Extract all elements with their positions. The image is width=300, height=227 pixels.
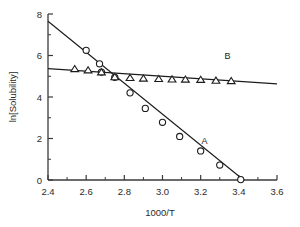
x-tick-label: 2.4: [41, 186, 54, 197]
x-axis-title: 1000/T: [145, 207, 175, 218]
fit-lines: [48, 21, 277, 180]
x-tick-label: 3.6: [270, 186, 283, 197]
data-point-circle: [96, 61, 102, 67]
axes: [48, 14, 277, 180]
y-axis-ticks: [48, 14, 53, 180]
x-tick-label: 3.0: [156, 186, 169, 197]
x-tick-label: 2.6: [80, 186, 93, 197]
fit-line-a: [48, 21, 244, 180]
series-label-a: A: [201, 136, 207, 146]
x-axis-tick-labels: 2.42.62.83.03.23.43.6: [41, 186, 283, 197]
solubility-scatter-plot: 2.42.62.83.03.23.43.6 02468 AB 1000/T ln…: [0, 0, 300, 227]
x-tick-label: 3.4: [232, 186, 245, 197]
data-point-circle: [238, 176, 244, 182]
y-tick-label: 4: [37, 92, 42, 103]
data-point-circle: [177, 133, 183, 139]
data-point-circle: [159, 119, 165, 125]
data-markers: [71, 47, 244, 182]
chart-figure: 2.42.62.83.03.23.43.6 02468 AB 1000/T ln…: [0, 0, 300, 227]
y-axis-tick-labels: 02468: [37, 9, 42, 186]
series-labels: AB: [201, 51, 230, 147]
y-tick-label: 8: [37, 9, 42, 20]
data-point-circle: [142, 105, 148, 111]
y-tick-label: 0: [37, 175, 42, 186]
y-tick-label: 6: [37, 50, 42, 61]
data-point-circle: [217, 162, 223, 168]
x-tick-label: 2.8: [118, 186, 131, 197]
data-point-triangle: [182, 76, 190, 82]
data-point-triangle: [126, 74, 134, 80]
series-b-markers: [71, 65, 235, 83]
data-point-triangle: [140, 75, 148, 81]
data-point-triangle: [71, 65, 79, 71]
data-point-triangle: [84, 67, 92, 73]
y-axis-title: ln[Solubility]: [7, 72, 18, 123]
y-tick-label: 2: [37, 133, 42, 144]
data-point-circle: [127, 90, 133, 96]
data-point-circle: [83, 47, 89, 53]
data-point-circle: [198, 148, 204, 154]
series-label-b: B: [224, 51, 230, 61]
x-tick-label: 3.2: [194, 186, 207, 197]
